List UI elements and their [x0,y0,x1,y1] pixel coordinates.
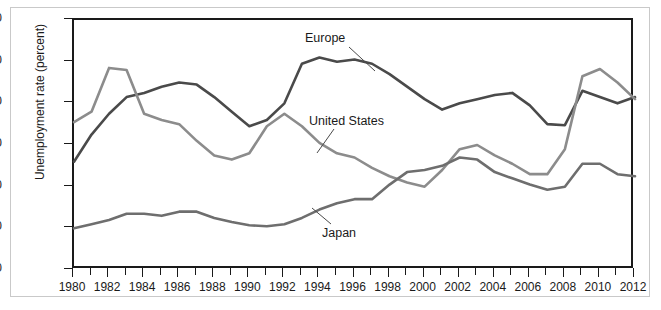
x-tick-label: 1988 [199,280,226,294]
x-tick-mark-major [177,268,178,277]
x-tick-mark-minor [265,268,266,275]
y-tick-mark [64,143,72,144]
y-tick-mark [64,268,72,269]
x-tick-mark-minor [615,268,616,275]
x-tick-label: 1998 [374,280,401,294]
x-tick-mark-minor [195,268,196,275]
x-tick-label: 1990 [234,280,261,294]
series-label-united-states: United States [309,114,384,128]
y-tick-mark [64,18,72,19]
x-tick-label: 2006 [514,280,541,294]
x-tick-mark-major [423,268,424,277]
x-tick-label: 1994 [304,280,331,294]
x-tick-label: 2002 [444,280,471,294]
leader-line [348,46,376,72]
x-tick-mark-minor [90,268,91,275]
x-tick-mark-minor [335,268,336,275]
x-tick-mark-minor [475,268,476,275]
series-label-europe: Europe [305,31,345,45]
x-tick-mark-minor [370,268,371,275]
x-tick-mark-major [282,268,283,277]
x-tick-mark-major [493,268,494,277]
x-tick-label: 1986 [164,280,191,294]
x-tick-label: 1992 [269,280,296,294]
leader-line [316,128,335,154]
x-tick-mark-major [563,268,564,277]
x-tick-label: 2012 [620,280,647,294]
x-tick-label: 2008 [550,280,577,294]
x-tick-label: 2004 [479,280,506,294]
x-tick-mark-major [107,268,108,277]
x-tick-mark-major [633,268,634,277]
y-axis-title: Unemployment rate (percent) [33,2,47,202]
x-tick-mark-major [598,268,599,277]
figure: Unemployment rate (percent) EuropeUnited… [0,0,661,310]
x-tick-label: 1982 [94,280,121,294]
x-tick-mark-minor [545,268,546,275]
x-tick-mark-major [247,268,248,277]
x-tick-mark-major [353,268,354,277]
x-tick-mark-minor [440,268,441,275]
x-tick-mark-major [72,268,73,277]
y-tick-label: 2.0 [0,219,2,233]
x-tick-mark-major [212,268,213,277]
y-tick-label: 8.0 [0,94,2,108]
x-tick-mark-minor [230,268,231,275]
x-tick-label: 1980 [59,280,86,294]
y-tick-label: 4.0 [0,178,2,192]
y-tick-mark [64,101,72,102]
x-tick-mark-minor [300,268,301,275]
x-tick-mark-major [142,268,143,277]
y-tick-mark [64,226,72,227]
x-tick-mark-major [458,268,459,277]
y-tick-label: 0.0 [0,261,2,275]
series-line-europe [74,58,635,162]
x-tick-mark-minor [160,268,161,275]
x-tick-mark-minor [510,268,511,275]
x-tick-mark-major [388,268,389,277]
x-tick-label: 2010 [585,280,612,294]
x-tick-label: 2000 [409,280,436,294]
x-tick-label: 1996 [339,280,366,294]
x-tick-mark-major [528,268,529,277]
y-tick-label: 6.0 [0,136,2,150]
x-tick-mark-minor [580,268,581,275]
y-tick-mark [64,185,72,186]
y-tick-mark [64,60,72,61]
leader-line [311,207,332,225]
series-label-japan: Japan [322,226,356,240]
x-tick-mark-minor [125,268,126,275]
x-tick-mark-minor [405,268,406,275]
y-tick-label: 12.0 [0,11,2,25]
y-tick-label: 10.0 [0,53,2,67]
x-tick-mark-major [317,268,318,277]
x-tick-label: 1984 [129,280,156,294]
